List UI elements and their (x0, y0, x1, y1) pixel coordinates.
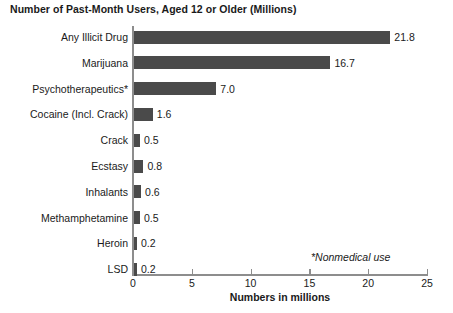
bar (134, 31, 390, 44)
x-tick-label: 25 (412, 277, 442, 289)
bar (134, 185, 141, 198)
bar-value-label: 21.8 (394, 26, 414, 48)
bar-value-label: 0.5 (144, 129, 159, 151)
bar (134, 134, 140, 147)
bar (134, 82, 216, 95)
category-label: LSD (0, 258, 128, 280)
bar-row: Psychotherapeutics*7.0 (0, 78, 453, 100)
bar-chart: Number of Past-Month Users, Aged 12 or O… (0, 0, 453, 313)
bar (134, 237, 137, 250)
bar-value-label: 0.6 (145, 181, 160, 203)
x-tick-mark (427, 269, 428, 275)
bar (134, 160, 143, 173)
bar-row: Crack0.5 (0, 129, 453, 151)
bar (134, 108, 153, 121)
x-tick-mark (251, 269, 252, 275)
bar-value-label: 1.6 (157, 103, 172, 125)
x-tick-mark (192, 269, 193, 275)
bar-value-label: 16.7 (334, 52, 354, 74)
category-label: Any Illicit Drug (0, 26, 128, 48)
category-label: Heroin (0, 232, 128, 254)
category-label: Crack (0, 129, 128, 151)
bar-row: Cocaine (Incl. Crack)1.6 (0, 103, 453, 125)
x-tick-label: 15 (294, 277, 324, 289)
x-tick-label: 20 (353, 277, 383, 289)
category-label: Cocaine (Incl. Crack) (0, 103, 128, 125)
category-label: Ecstasy (0, 155, 128, 177)
bar-row: Ecstasy0.8 (0, 155, 453, 177)
bar-value-label: 7.0 (220, 78, 235, 100)
bar-row: Inhalants0.6 (0, 181, 453, 203)
x-tick-mark (368, 269, 369, 275)
x-tick-label: 0 (118, 277, 148, 289)
x-axis-title: Numbers in millions (133, 291, 427, 303)
bar (134, 263, 137, 276)
bar-value-label: 0.2 (141, 232, 156, 254)
category-label: Inhalants (0, 181, 128, 203)
x-tick-mark (309, 269, 310, 275)
bar (134, 56, 330, 69)
bar (134, 211, 140, 224)
chart-title: Number of Past-Month Users, Aged 12 or O… (10, 3, 296, 15)
bar-row: Any Illicit Drug21.8 (0, 26, 453, 48)
category-label: Marijuana (0, 52, 128, 74)
x-tick-label: 5 (177, 277, 207, 289)
bar-row: Methamphetamine0.5 (0, 207, 453, 229)
x-tick-mark (133, 269, 134, 275)
footnote-annotation: *Nonmedical use (311, 251, 390, 263)
bar-row: Marijuana16.7 (0, 52, 453, 74)
category-label: Methamphetamine (0, 207, 128, 229)
category-label: Psychotherapeutics* (0, 78, 128, 100)
bar-value-label: 0.5 (144, 207, 159, 229)
x-tick-label: 10 (236, 277, 266, 289)
bar-value-label: 0.8 (147, 155, 162, 177)
